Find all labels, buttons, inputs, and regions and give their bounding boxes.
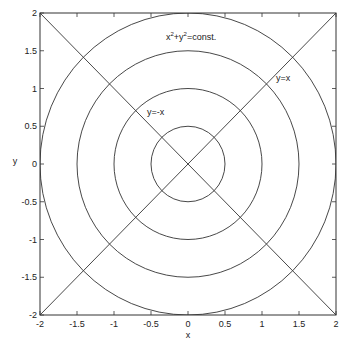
x-tick-labels: -2 -1.5 -1 -0.5 0 0.5 1 1.5 2	[36, 319, 339, 329]
y-tick-label: 1	[32, 84, 37, 94]
y-tick-labels: 2 1.5 1 0.5 0 -0.5 -1 -1.5 -2	[21, 8, 37, 320]
y-axis-label: y	[13, 156, 18, 166]
annotation-y-eq-x: y=x	[276, 73, 291, 83]
x-tick-label: -2	[36, 319, 44, 329]
y-tick-label: 0.5	[24, 121, 37, 131]
y-tick-label: 1.5	[24, 46, 37, 56]
x-tick-label: 0.5	[219, 319, 232, 329]
x-axis-label: x	[186, 330, 191, 340]
y-tick-label: -1.5	[21, 272, 37, 282]
x-tick-label: -0.5	[143, 319, 159, 329]
y-tick-label: 0	[32, 159, 37, 169]
x-tick-label: -1.5	[69, 319, 85, 329]
y-tick-label: 2	[32, 8, 37, 18]
annotation-circle-equation: x2+y2=const.	[166, 31, 216, 42]
annotation-y-eq-neg-x: y=-x	[147, 107, 165, 117]
y-tick-label: -2	[29, 310, 37, 320]
y-tick-label: -0.5	[21, 197, 37, 207]
x-tick-label: 0	[185, 319, 190, 329]
x-tick-label: 1	[259, 319, 264, 329]
x-tick-label: -1	[110, 319, 118, 329]
chart: -2 -1.5 -1 -0.5 0 0.5 1 1.5 2 2 1.5 1 0.…	[0, 0, 351, 349]
x-tick-label: 1.5	[293, 319, 306, 329]
y-tick-label: -1	[29, 235, 37, 245]
x-tick-label: 2	[333, 319, 338, 329]
